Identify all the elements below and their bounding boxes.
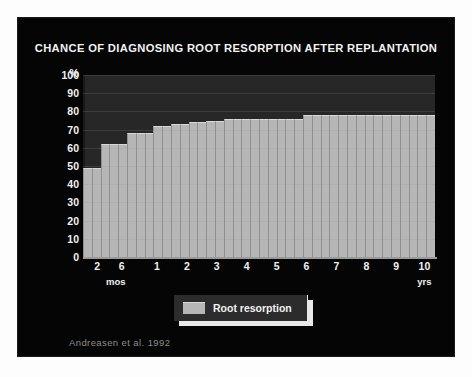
y-axis-tick: 50: [29, 161, 79, 172]
y-axis-tick: 30: [29, 197, 79, 208]
x-axis-tick: 8: [363, 261, 369, 272]
y-axis-tick-labels: 1009080706050403020100: [29, 75, 79, 257]
gridline: [83, 130, 435, 131]
x-axis-tick: 6: [304, 261, 310, 272]
y-axis-tick: 0: [29, 252, 79, 263]
legend-label: Root resorption: [213, 302, 292, 314]
gridline: [83, 239, 435, 240]
y-axis-tick: 60: [29, 143, 79, 154]
legend-swatch-icon: [183, 302, 205, 314]
chart-legend: Root resorption: [174, 295, 308, 321]
x-axis-unit-right: yrs: [417, 277, 431, 287]
gridline: [83, 111, 435, 112]
x-axis-line: [83, 257, 437, 259]
citation-text: Andreasen et al. 1992: [69, 337, 170, 348]
gridline: [83, 184, 435, 185]
plot-area: [83, 75, 435, 257]
x-axis-tick: 3: [214, 261, 220, 272]
gridline: [83, 93, 435, 94]
slide-canvas: CHANCE OF DIAGNOSING ROOT RESORPTION AFT…: [17, 17, 455, 357]
y-axis-tick: 40: [29, 179, 79, 190]
y-axis-tick: 70: [29, 124, 79, 135]
y-axis-tick: 20: [29, 215, 79, 226]
x-axis-tick: 9: [393, 261, 399, 272]
y-axis-tick: 90: [29, 88, 79, 99]
gridline: [83, 148, 435, 149]
x-axis-tick: 1: [154, 261, 160, 272]
y-axis-tick: 10: [29, 234, 79, 245]
x-axis-unit-left: mos: [106, 277, 126, 287]
x-axis-tick: 4: [244, 261, 250, 272]
x-axis-tick: 10: [419, 261, 431, 272]
x-axis-tick-labels: 2612345678910mosyrs: [83, 261, 435, 277]
x-axis-tick: 7: [334, 261, 340, 272]
y-axis-tick: 80: [29, 106, 79, 117]
x-axis-tick: 6: [119, 261, 125, 272]
x-axis-tick: 5: [274, 261, 280, 272]
gridline: [83, 221, 435, 222]
y-axis-tick: 100: [29, 70, 79, 81]
x-axis-tick: 2: [94, 261, 100, 272]
page-background: CHANCE OF DIAGNOSING ROOT RESORPTION AFT…: [0, 0, 472, 377]
bar: [426, 115, 435, 257]
x-axis-tick: 2: [184, 261, 190, 272]
gridline: [83, 166, 435, 167]
gridline: [83, 75, 435, 76]
gridline: [83, 202, 435, 203]
